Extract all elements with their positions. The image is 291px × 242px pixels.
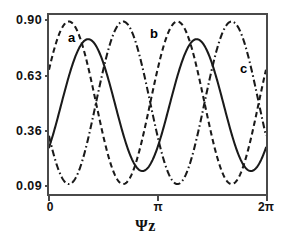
- curve-label-a: a: [68, 31, 75, 44]
- x-axis-tick-label-pi: π: [151, 200, 165, 214]
- y-axis-tick-label-063: 0.63: [4, 69, 42, 83]
- curve-a-dashed: [49, 22, 266, 185]
- curve-label-b: b: [150, 27, 158, 40]
- y-axis-tick-label-009: 0.09: [4, 179, 42, 193]
- curve-label-c: c: [240, 62, 247, 75]
- curve-b-dash-dot: [49, 22, 266, 185]
- curve-c-solid: [49, 39, 266, 171]
- y-axis-tick-label-090: 0.90: [4, 13, 42, 27]
- x-axis-tick-label-0: 0: [43, 200, 57, 214]
- y-axis-tick-label-036: 0.36: [4, 124, 42, 138]
- chart-figure: 0.90 0.63 0.36 0.09 0 π 2π Ψz a b c: [0, 0, 291, 242]
- curves-svg: [49, 15, 266, 194]
- x-axis-tick-label-2pi: 2π: [254, 200, 278, 214]
- x-axis-title: Ψz: [0, 217, 291, 235]
